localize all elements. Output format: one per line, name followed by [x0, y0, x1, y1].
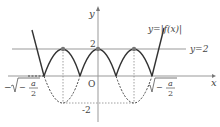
svg-text:−: − — [19, 83, 26, 92]
svg-text:2: 2 — [31, 89, 36, 98]
svg-text:−: − — [4, 82, 12, 92]
y-axis-label: y — [88, 8, 95, 19]
y-axis-arrow-icon — [96, 6, 100, 11]
max-point — [96, 47, 100, 51]
svg-text:2: 2 — [168, 89, 173, 98]
tick-label-2: 2 — [90, 39, 96, 49]
curve-label: y=|f(x)| — [147, 24, 182, 35]
origin-label: O — [88, 79, 95, 89]
svg-text:a: a — [31, 79, 36, 88]
max-point — [61, 47, 65, 51]
x-axis-label: x — [211, 77, 217, 88]
tick-label-minus-2: -2 — [82, 105, 91, 115]
tick-label-right-root: − a 2 — [148, 78, 177, 98]
function-graph: y x O 2 -2 y=|f(x)| y=2 − − a 2 − a 2 — [0, 0, 220, 127]
line-label: y=2 — [189, 44, 209, 54]
max-point — [132, 47, 136, 51]
tick-label-left-root: − − a 2 — [4, 78, 40, 98]
svg-text:−: − — [156, 83, 163, 92]
svg-text:a: a — [168, 79, 173, 88]
